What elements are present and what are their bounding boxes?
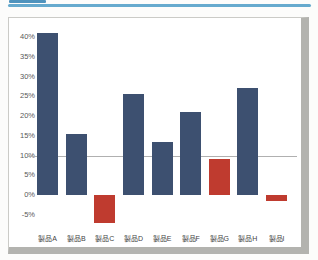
bar-i [266, 195, 287, 201]
y-axis-tick-label: 5% [9, 171, 35, 179]
bar-a [37, 33, 58, 195]
y-axis-tick-label: -5% [9, 211, 35, 219]
bar-b [66, 134, 87, 195]
chart-container: 40%35%30%25%20%15%10%5%0%-5%製品A製品B製品C製品D… [8, 17, 309, 254]
page: 40%35%30%25%20%15%10%5%0%-5%製品A製品B製品C製品D… [0, 0, 318, 260]
y-axis-tick-label: 15% [9, 132, 35, 140]
y-axis-tick-label: 20% [9, 112, 35, 120]
bar-c [94, 195, 115, 223]
y-axis-tick-label: 30% [9, 73, 35, 81]
x-axis-category-label: 製品E [146, 233, 178, 243]
x-axis-category-label: 製品I [261, 233, 293, 243]
header-divider-rule [8, 4, 311, 7]
x-axis-category-label: 製品C [89, 233, 121, 243]
plot-area: 40%35%30%25%20%15%10%5%0%-5%製品A製品B製品C製品D… [9, 18, 301, 247]
bar-h [237, 88, 258, 195]
y-axis-tick-label: 40% [9, 33, 35, 41]
active-tab-underline[interactable] [9, 0, 46, 3]
x-axis-category-label: 製品B [60, 233, 92, 243]
x-axis-category-label: 製品A [32, 233, 64, 243]
y-axis-tick-label: 0% [9, 191, 35, 199]
bar-d [123, 94, 144, 195]
bar-g [209, 159, 230, 195]
y-axis-tick-label: 35% [9, 53, 35, 61]
bar-e [152, 142, 173, 195]
x-axis-category-label: 製品G [203, 233, 235, 243]
x-axis-category-label: 製品H [232, 233, 264, 243]
y-axis-tick-label: 25% [9, 92, 35, 100]
x-axis-category-label: 製品D [118, 233, 150, 243]
bar-f [180, 112, 201, 195]
x-axis-category-label: 製品F [175, 233, 207, 243]
